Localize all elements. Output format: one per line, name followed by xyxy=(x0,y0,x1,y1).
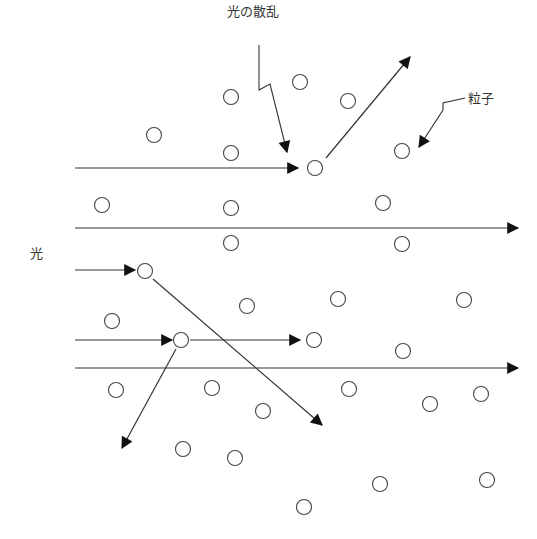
particle-24 xyxy=(423,397,438,412)
light-label: 光 xyxy=(30,246,43,261)
light-scattering-diagram: 光の散乱 粒子 光 xyxy=(0,0,537,539)
particle-21 xyxy=(205,381,220,396)
particle-13 xyxy=(240,299,255,314)
particle-27 xyxy=(228,451,243,466)
particle-3 xyxy=(147,128,162,143)
particle-30 xyxy=(297,500,312,515)
light-ray-7 xyxy=(122,349,176,448)
particle-callout xyxy=(419,98,465,147)
light-ray-4 xyxy=(153,279,322,425)
particle-1 xyxy=(293,75,308,90)
particle-29 xyxy=(480,473,495,488)
light-ray-1 xyxy=(326,57,410,158)
particle-23 xyxy=(256,404,271,419)
particle-12 xyxy=(138,264,153,279)
particle-18 xyxy=(307,333,322,348)
particle-2 xyxy=(341,94,356,109)
particle-10 xyxy=(224,236,239,251)
callout-lines xyxy=(259,45,465,152)
particle-8 xyxy=(224,201,239,216)
particle-25 xyxy=(474,387,489,402)
particle-16 xyxy=(105,314,120,329)
particle-22 xyxy=(342,382,357,397)
particle-6 xyxy=(395,144,410,159)
particle-15 xyxy=(457,293,472,308)
particle-0 xyxy=(224,90,239,105)
particle-26 xyxy=(176,442,191,457)
particle-4 xyxy=(224,146,239,161)
particle-9 xyxy=(376,196,391,211)
particle-19 xyxy=(396,344,411,359)
particle-28 xyxy=(373,477,388,492)
scattering-label: 光の散乱 xyxy=(227,4,279,19)
particles xyxy=(95,75,495,515)
particle-5 xyxy=(308,161,323,176)
particle-7 xyxy=(95,198,110,213)
particle-11 xyxy=(395,237,410,252)
scattering-callout xyxy=(259,45,287,152)
diagram-canvas: 光の散乱 粒子 光 xyxy=(0,0,537,539)
particle-20 xyxy=(109,383,124,398)
particle-label: 粒子 xyxy=(468,91,494,106)
particle-14 xyxy=(331,292,346,307)
particle-17 xyxy=(174,333,189,348)
light-rays xyxy=(75,57,518,448)
